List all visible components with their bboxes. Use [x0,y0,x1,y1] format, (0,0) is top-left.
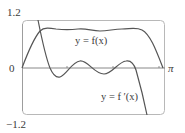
x-max-label: π [168,63,174,74]
y-min-label: −1.2 [6,119,26,130]
origin-label: 0 [9,63,15,74]
plot-area [0,0,185,133]
f-curve-label: y = f(x) [75,36,107,47]
y-max-label: 1.2 [7,7,21,18]
f-prime-curve-label: y = f ′(x) [101,92,138,103]
